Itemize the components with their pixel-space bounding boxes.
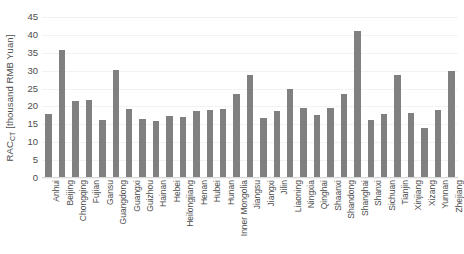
x-tick-label: Gansu (106, 180, 115, 205)
x-tick-label: Guangdong (119, 180, 128, 224)
x-tick-label: Xizang (428, 180, 437, 206)
bar[interactable] (421, 128, 427, 178)
bar[interactable] (287, 89, 293, 178)
x-tick-label: Guangxi (133, 180, 142, 212)
x-tick-label: Zhejiang (455, 180, 464, 213)
y-tick-label: 45 (27, 12, 38, 22)
bar[interactable] (327, 108, 333, 178)
bar[interactable] (408, 113, 414, 178)
x-tick-label: Anhui (52, 180, 61, 202)
x-tick-label: Liaoning (294, 180, 303, 212)
y-tick-label: 20 (27, 102, 38, 112)
bar[interactable] (113, 70, 119, 178)
bar[interactable] (394, 75, 400, 178)
bar[interactable] (207, 110, 213, 178)
bar[interactable] (368, 120, 374, 178)
y-tick-label: 5 (33, 155, 38, 165)
bar[interactable] (381, 114, 387, 178)
x-tick-label: Jiangxi (267, 180, 276, 206)
bar[interactable] (180, 117, 186, 178)
y-axis-title-subscript: CT (9, 131, 16, 141)
y-axis-title-text: RACCT [thousand RMB Yuan] (4, 34, 16, 161)
y-tick-label: 35 (27, 48, 38, 58)
x-tick-label: Chongqing (79, 180, 88, 221)
bar[interactable] (193, 111, 199, 178)
x-tick-label: Hubei (213, 180, 222, 202)
bar[interactable] (247, 75, 253, 178)
y-tick-label: 10 (27, 137, 38, 147)
bar[interactable] (233, 94, 239, 178)
x-tick-label: Sichuan (388, 180, 397, 211)
x-tick-label: Shaanxi (334, 180, 343, 211)
x-tick-label: Qinghai (320, 180, 329, 209)
x-tick-label: Jiangsu (253, 180, 262, 209)
plot-area (42, 17, 458, 178)
x-tick-label: Henan (200, 180, 209, 205)
bar[interactable] (220, 109, 226, 178)
y-tick-label: 15 (27, 120, 38, 130)
bar[interactable] (354, 31, 360, 178)
bar[interactable] (139, 119, 145, 178)
bar[interactable] (86, 100, 92, 178)
bar[interactable] (153, 121, 159, 178)
bar[interactable] (59, 50, 65, 178)
bar[interactable] (72, 101, 78, 178)
y-axis-title-unit: [thousand RMB Yuan] (4, 34, 15, 131)
x-tick-label: Shanxi (374, 180, 383, 206)
x-tick-label: Beijing (66, 180, 75, 206)
y-axis-title-main: RAC (4, 141, 15, 161)
x-tick-label: Fujian (92, 180, 101, 203)
x-tick-label: Jilin (280, 180, 289, 195)
y-tick-label: 0 (33, 173, 38, 183)
x-axis-tick-labels: AnhuiBeijingChongqingFujianGansuGuangdon… (42, 180, 458, 254)
x-tick-label: Ningxia (307, 180, 316, 208)
y-tick-label: 30 (27, 66, 38, 76)
y-axis-title: RACCT [thousand RMB Yuan] (0, 0, 20, 195)
bar[interactable] (166, 116, 172, 178)
x-tick-label: Heilongjiang (186, 180, 195, 227)
x-axis-line (42, 177, 458, 178)
bar[interactable] (314, 115, 320, 178)
x-tick-label: Inner Mongolia (240, 180, 249, 236)
bar[interactable] (260, 118, 266, 178)
x-tick-label: Shanghai (361, 180, 370, 216)
y-tick-label: 25 (27, 84, 38, 94)
y-tick-label: 40 (27, 30, 38, 40)
x-tick-label: Hunan (227, 180, 236, 205)
bar[interactable] (300, 108, 306, 178)
bars-group (42, 17, 458, 178)
bar[interactable] (274, 111, 280, 178)
bar[interactable] (99, 120, 105, 178)
x-tick-label: Yunnan (441, 180, 450, 209)
x-tick-label: Xinjiang (414, 180, 423, 210)
bar[interactable] (45, 114, 51, 178)
x-tick-label: Hebei (173, 180, 182, 202)
bar[interactable] (126, 109, 132, 178)
bar[interactable] (435, 110, 441, 178)
x-tick-label: Tianjin (401, 180, 410, 205)
bar[interactable] (341, 94, 347, 178)
y-axis-tick-labels: 051015202530354045 (18, 15, 38, 178)
x-tick-label: Hainan (159, 180, 168, 207)
bar[interactable] (448, 71, 454, 178)
x-tick-label: Guizhou (146, 180, 155, 212)
x-tick-label: Shandong (347, 180, 356, 219)
